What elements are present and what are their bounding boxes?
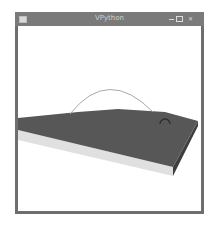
maximize-button[interactable] bbox=[176, 15, 183, 22]
maximize-icon bbox=[176, 16, 183, 22]
close-button[interactable]: ✕ bbox=[186, 15, 195, 22]
title-bar[interactable]: VPython ✕ bbox=[15, 12, 204, 26]
close-icon: ✕ bbox=[188, 15, 193, 22]
minimize-icon bbox=[169, 19, 174, 20]
vpython-window: VPython ✕ bbox=[15, 12, 204, 214]
scene-svg bbox=[18, 26, 201, 211]
minimize-button[interactable] bbox=[168, 15, 175, 22]
scene-canvas[interactable] bbox=[18, 26, 201, 211]
